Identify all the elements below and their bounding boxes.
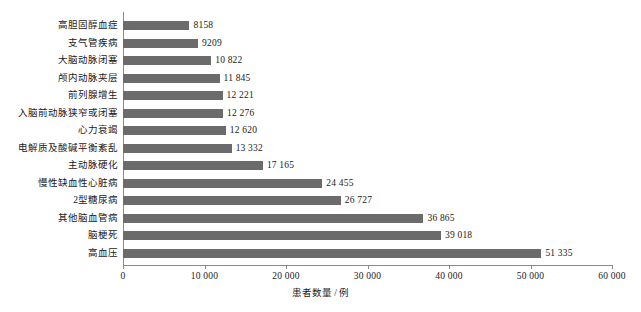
x-axis-tick	[368, 265, 369, 269]
x-axis-tick	[205, 265, 206, 269]
category-label: 电解质及酸碱平衡紊乱	[18, 141, 118, 155]
plot-area: 010 00020 00030 00040 00050 00060 000815…	[123, 12, 612, 265]
category-label: 高胆固醇血症	[58, 18, 118, 32]
bar	[123, 109, 223, 118]
bar	[123, 249, 541, 258]
bar	[123, 74, 220, 83]
bar	[123, 179, 322, 188]
category-label: 支气管疾病	[68, 36, 118, 50]
bar-value-label: 36 865	[427, 211, 454, 225]
bar-value-label: 12 276	[227, 106, 254, 120]
category-label: 2型糖尿病	[73, 193, 118, 207]
bar-row: 26 7272型糖尿病	[123, 192, 612, 210]
bar	[123, 39, 198, 48]
figure-caption-clip	[0, 304, 641, 312]
bar-row: 36 865其他脑血管病	[123, 210, 612, 228]
bar-row: 12 620心力衰竭	[123, 122, 612, 140]
x-axis-tick-label: 50 000	[517, 271, 544, 281]
bar-row: 8158高胆固醇血症	[123, 17, 612, 35]
bar	[123, 56, 211, 65]
bar-value-label: 8158	[193, 18, 213, 32]
bar-value-label: 12 221	[227, 88, 254, 102]
bar-row: 12 221前列腺增生	[123, 87, 612, 105]
x-axis-title: 患者数量 / 例	[0, 285, 641, 299]
x-axis-tick-label: 40 000	[435, 271, 462, 281]
bar	[123, 161, 263, 170]
category-label: 脑梗死	[88, 228, 118, 242]
bar-row: 17 165主动脉硬化	[123, 157, 612, 175]
category-label: 大脑动脉闭塞	[58, 53, 118, 67]
bar-row: 24 455慢性缺血性心脏病	[123, 175, 612, 193]
category-label: 主动脉硬化	[68, 158, 118, 172]
bar	[123, 196, 341, 205]
bar-value-label: 39 018	[445, 228, 472, 242]
bar-value-label: 13 332	[236, 141, 263, 155]
x-axis-tick	[286, 265, 287, 269]
category-label: 其他脑血管病	[58, 211, 118, 225]
x-axis-tick-label: 60 000	[598, 271, 625, 281]
bar	[123, 126, 226, 135]
bar	[123, 91, 223, 100]
x-axis-tick	[612, 265, 613, 269]
category-label: 颅内动脉夹层	[58, 71, 118, 85]
bar-value-label: 26 727	[345, 193, 372, 207]
bar-chart: 010 00020 00030 00040 00050 00060 000815…	[0, 0, 641, 312]
bar	[123, 144, 232, 153]
category-label: 前列腺增生	[68, 88, 118, 102]
bar-value-label: 9209	[202, 36, 222, 50]
bar-value-label: 17 165	[267, 158, 294, 172]
category-label: 入脑前动脉狭窄或闭塞	[18, 106, 118, 120]
bar-row: 13 332电解质及酸碱平衡紊乱	[123, 140, 612, 158]
bar-row: 9209支气管疾病	[123, 35, 612, 53]
bar-value-label: 11 845	[224, 71, 251, 85]
bar-row: 51 335高血压	[123, 245, 612, 263]
bar-value-label: 24 455	[326, 176, 353, 190]
bar-row: 12 276入脑前动脉狭窄或闭塞	[123, 105, 612, 123]
x-axis-tick-label: 30 000	[354, 271, 381, 281]
category-label: 心力衰竭	[78, 123, 118, 137]
x-axis-tick-label: 0	[121, 271, 126, 281]
bar-row: 11 845颅内动脉夹层	[123, 70, 612, 88]
bar-value-label: 51 335	[545, 246, 572, 260]
bar-row: 10 822大脑动脉闭塞	[123, 52, 612, 70]
bar-row: 39 018脑梗死	[123, 227, 612, 245]
x-axis-tick-label: 10 000	[191, 271, 218, 281]
bar-value-label: 12 620	[230, 123, 257, 137]
x-axis-tick	[123, 265, 124, 269]
bar	[123, 231, 441, 240]
x-axis-tick	[531, 265, 532, 269]
bar	[123, 214, 423, 223]
bar-value-label: 10 822	[215, 53, 242, 67]
category-label: 高血压	[88, 246, 118, 260]
x-axis-tick-label: 20 000	[272, 271, 299, 281]
x-axis-tick	[449, 265, 450, 269]
category-label: 慢性缺血性心脏病	[38, 176, 118, 190]
bar	[123, 21, 189, 30]
